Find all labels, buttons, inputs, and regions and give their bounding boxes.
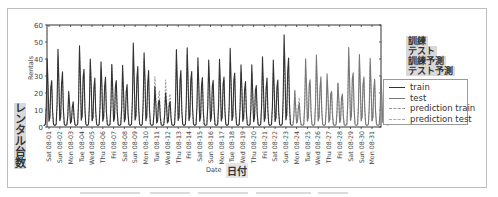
y-tick-label: 30 xyxy=(34,73,43,81)
legend-item-train: train xyxy=(384,82,467,93)
x-tick-label: Thu 08-13 xyxy=(175,131,182,164)
legend-jp-annotation-prediction-test: テスト予測 xyxy=(406,66,455,76)
x-tick-label: Sat 08-08 xyxy=(121,131,128,162)
x-tick-label: Sat 08-29 xyxy=(347,131,354,162)
x-tick-label: Mon 08-31 xyxy=(368,131,375,165)
x-tick-label: Sun 08-30 xyxy=(358,131,365,163)
x-tick-label: Sun 08-02 xyxy=(56,131,63,163)
x-tick-label: Tue 08-04 xyxy=(78,131,85,163)
dashed-line-swatch-icon xyxy=(389,108,405,109)
x-tick-label: Sat 08-15 xyxy=(196,131,203,162)
x-axis-label: Date xyxy=(206,166,222,174)
x-tick-label: Wed 08-26 xyxy=(314,131,321,165)
x-tick-label: Sun 08-16 xyxy=(207,131,214,163)
legend-item-prediction-train: prediction train xyxy=(384,103,467,114)
x-tick-label: Mon 08-17 xyxy=(218,131,225,165)
y-axis-label: Rentals xyxy=(27,55,35,80)
legend-label: test xyxy=(410,93,426,104)
x-axis-label-jp: 日付 xyxy=(226,163,248,178)
x-tick-label: Tue 08-18 xyxy=(228,131,235,163)
legend-jp-annotation-prediction-train: 訓練予測 xyxy=(406,56,446,66)
y-tick-label: 20 xyxy=(34,90,43,98)
x-tick-label: Fri 08-14 xyxy=(185,131,192,159)
x-tick-label: Wed 08-12 xyxy=(164,131,171,165)
chart-legend: train test prediction train prediction t… xyxy=(383,79,468,125)
cropped-caption-text xyxy=(80,191,350,195)
x-tick-label: Thu 08-20 xyxy=(250,131,257,164)
y-tick-label: 10 xyxy=(34,107,43,115)
x-tick-label: Sun 08-23 xyxy=(282,131,289,163)
x-tick-label: Wed 08-05 xyxy=(88,131,95,165)
x-tick-label: Fri 08-07 xyxy=(110,131,117,159)
y-tick-label: 60 xyxy=(34,22,43,30)
x-tick-label: Sat 08-01 xyxy=(45,131,52,162)
x-tick-label: Mon 08-03 xyxy=(67,131,74,165)
series-test xyxy=(291,48,388,126)
legend-label: prediction test xyxy=(410,114,472,125)
y-tick-label: 0 xyxy=(39,124,43,132)
dashed-line-swatch-icon xyxy=(389,119,405,120)
x-tick-label: Tue 08-25 xyxy=(304,131,311,163)
x-tick-label: Sun 08-09 xyxy=(131,131,138,163)
legend-jp-annotation-train: 訓練 xyxy=(406,36,428,46)
x-tick-label: Mon 08-24 xyxy=(293,131,300,165)
x-tick-label: Tue 08-11 xyxy=(153,131,160,163)
x-tick-label: Thu 08-06 xyxy=(99,131,106,164)
x-tick-label: Thu 08-27 xyxy=(325,131,332,164)
x-tick-label: Wed 08-19 xyxy=(239,131,246,165)
x-tick-label: Fri 08-28 xyxy=(336,131,343,159)
x-tick-label: Fri 08-21 xyxy=(261,131,268,159)
y-tick-label: 50 xyxy=(34,39,43,47)
legend-item-test: test xyxy=(384,93,467,104)
legend-item-prediction-test: prediction test xyxy=(384,114,467,125)
y-axis-label-jp: レンタル台数 xyxy=(14,103,26,169)
y-tick-label: 40 xyxy=(34,56,43,64)
legend-label: prediction train xyxy=(410,103,475,114)
legend-jp-annotation-test: テスト xyxy=(406,46,437,56)
x-tick-label: Sat 08-22 xyxy=(271,131,278,162)
solid-line-swatch-icon xyxy=(389,98,405,99)
legend-label: train xyxy=(410,82,430,93)
solid-line-swatch-icon xyxy=(389,87,405,88)
x-tick-label: Mon 08-10 xyxy=(142,131,149,165)
